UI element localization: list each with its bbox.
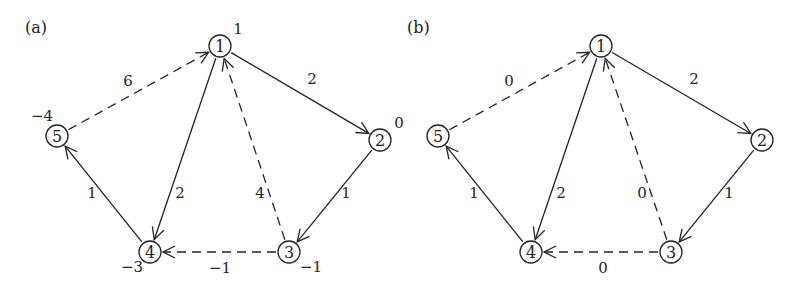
edge-4-5: 1 [65, 146, 142, 242]
node-5: 5 [427, 125, 449, 147]
edge-1-4: 2 [533, 58, 596, 239]
panel-b: (b)210201012345 [407, 18, 773, 277]
node-label: 4 [526, 243, 536, 262]
node-1: 1 [590, 35, 612, 57]
solid-edge-line [535, 58, 597, 239]
dashed-edge-line [449, 52, 589, 129]
edge-weight: 4 [255, 184, 265, 202]
solid-edge-line [65, 146, 142, 242]
graph-canvas: (a)2142−11611203−14−35−4 (b)210201012345 [0, 0, 804, 299]
dashed-edge-line [605, 58, 667, 239]
node-label: 3 [666, 243, 676, 262]
dashed-edge-line [224, 58, 285, 239]
edge-5-1: 0 [449, 52, 589, 129]
edge-3-1: 0 [603, 58, 666, 239]
edge-3-4: −1 [163, 246, 276, 277]
node-4: 4 [520, 241, 542, 263]
node-2: 20 [369, 114, 404, 151]
node-label: 3 [284, 243, 294, 262]
panel-label: (b) [407, 18, 430, 37]
edge-weight: 2 [175, 184, 185, 202]
node-4: 4−3 [121, 241, 161, 276]
solid-edge-line [154, 58, 216, 239]
edge-3-4: 0 [544, 246, 658, 277]
edge-4-5: 1 [446, 146, 523, 242]
node-3: 3−1 [278, 241, 322, 276]
panel-a: (a)2142−11611203−14−35−4 [25, 18, 404, 277]
node-label: 2 [375, 131, 385, 150]
solid-edge-line [297, 150, 372, 242]
node-label: 5 [52, 127, 62, 146]
node-label: 4 [145, 243, 155, 262]
edge-weight: 1 [341, 184, 351, 202]
node-label: 1 [596, 37, 606, 56]
node-potential: −4 [31, 107, 53, 125]
node-label: 2 [757, 131, 767, 150]
edge-weight: 1 [469, 184, 479, 202]
edge-weight: 1 [87, 184, 97, 202]
arrowhead-icon [222, 58, 233, 71]
node-potential: −1 [300, 258, 322, 276]
node-2: 2 [751, 129, 773, 151]
dashed-edge-line [68, 52, 208, 129]
edge-weight: 0 [504, 72, 514, 90]
edge-weight: 2 [307, 70, 317, 88]
solid-edge-line [231, 53, 369, 134]
node-label: 5 [433, 127, 443, 146]
edge-weight: 2 [556, 184, 566, 202]
edge-2-3: 1 [297, 150, 372, 242]
edge-weight: 2 [689, 70, 699, 88]
node-potential: 1 [233, 20, 243, 38]
edge-5-1: 6 [68, 52, 208, 129]
edge-weight: 1 [724, 184, 734, 202]
panel-label: (a) [25, 18, 47, 37]
edge-weight: −1 [209, 259, 231, 277]
node-5: 5−4 [31, 107, 68, 147]
solid-edge-line [679, 150, 754, 242]
edge-1-4: 2 [152, 58, 215, 239]
edge-weight: 0 [598, 259, 608, 277]
solid-edge-line [612, 53, 751, 134]
edge-weight: 6 [123, 72, 133, 90]
edge-1-2: 2 [612, 53, 751, 134]
arrowhead-icon [603, 58, 614, 71]
node-3: 3 [660, 241, 682, 263]
node-potential: 0 [394, 114, 404, 132]
node-1: 11 [209, 20, 243, 57]
node-label: 1 [215, 37, 225, 56]
edge-3-1: 4 [222, 58, 285, 239]
edge-weight: 0 [637, 184, 647, 202]
solid-edge-line [446, 146, 523, 242]
edge-2-3: 1 [679, 150, 754, 242]
node-potential: −3 [121, 258, 143, 276]
edge-1-2: 2 [231, 53, 369, 134]
